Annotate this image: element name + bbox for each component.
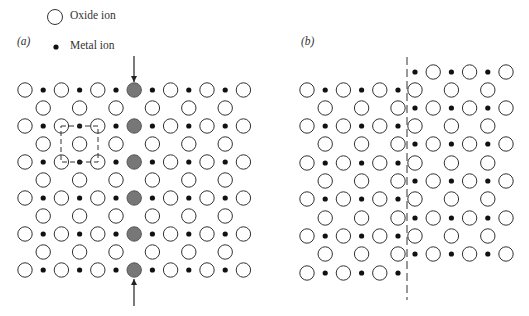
panel-b-label: (b) bbox=[301, 35, 314, 47]
oxide-ion bbox=[300, 156, 314, 170]
oxide-ion bbox=[391, 247, 405, 261]
oxide-ion bbox=[54, 191, 68, 205]
legend bbox=[48, 10, 63, 50]
oxide-ion bbox=[91, 263, 105, 277]
metal-ion bbox=[323, 123, 328, 128]
metal-ion bbox=[150, 87, 155, 92]
oxide-ion bbox=[481, 192, 495, 206]
oxide-ion bbox=[36, 101, 50, 115]
metal-ion bbox=[77, 267, 82, 272]
metal-ion bbox=[323, 233, 328, 238]
oxide-ion bbox=[373, 119, 387, 133]
metal-ion bbox=[77, 231, 82, 236]
metal-ion bbox=[41, 159, 46, 164]
oxide-ion bbox=[391, 101, 405, 115]
metal-ion bbox=[113, 87, 118, 92]
metal-ion bbox=[412, 141, 417, 146]
oxide-ion bbox=[91, 83, 105, 97]
oxide-ion bbox=[18, 83, 32, 97]
oxide-ion bbox=[426, 101, 440, 115]
arrow-up-icon bbox=[131, 279, 137, 306]
metal-ion bbox=[395, 87, 400, 92]
oxide-ion bbox=[444, 156, 458, 170]
oxide-ion bbox=[163, 263, 177, 277]
oxide-ion bbox=[109, 173, 123, 187]
oxide-ion bbox=[499, 247, 513, 261]
oxide-ion bbox=[145, 245, 159, 259]
oxide-ion bbox=[218, 101, 232, 115]
oxide-ion bbox=[18, 191, 32, 205]
oxide-ion bbox=[36, 245, 50, 259]
metal-ion bbox=[412, 215, 417, 220]
metal-ion bbox=[223, 159, 228, 164]
oxide-ion bbox=[182, 137, 196, 151]
oxide-ion bbox=[218, 209, 232, 223]
oxide-ion bbox=[91, 227, 105, 241]
oxide-ion bbox=[300, 83, 314, 97]
oxide-ion bbox=[354, 247, 368, 261]
oxide-ion bbox=[182, 209, 196, 223]
oxide-ion bbox=[354, 137, 368, 151]
oxide-ion bbox=[462, 247, 476, 261]
shaded-oxide-ion bbox=[127, 83, 141, 97]
metal-ion bbox=[186, 87, 191, 92]
metal-ion bbox=[359, 160, 364, 165]
metal-ion bbox=[77, 195, 82, 200]
shaded-oxide-ion bbox=[127, 155, 141, 169]
metal-ion bbox=[223, 267, 228, 272]
oxide-ion bbox=[462, 174, 476, 188]
oxide-ion bbox=[145, 209, 159, 223]
oxide-ion bbox=[462, 137, 476, 151]
oxide-ion bbox=[408, 119, 422, 133]
metal-ion bbox=[223, 123, 228, 128]
oxide-ion bbox=[218, 173, 232, 187]
oxide-ion bbox=[54, 227, 68, 241]
metal-ion bbox=[186, 195, 191, 200]
oxide-ion bbox=[109, 137, 123, 151]
oxide-ion-label: Oxide ion bbox=[70, 9, 116, 21]
metal-ion bbox=[150, 159, 155, 164]
oxide-ion bbox=[200, 227, 214, 241]
oxide-ion bbox=[391, 211, 405, 225]
oxide-ion bbox=[373, 83, 387, 97]
oxide-ion bbox=[236, 227, 250, 241]
metal-ion bbox=[186, 231, 191, 236]
metal-ion bbox=[223, 195, 228, 200]
oxide-ion bbox=[318, 247, 332, 261]
oxide-ion bbox=[18, 155, 32, 169]
oxide-ion bbox=[336, 266, 350, 280]
oxide-ion bbox=[481, 229, 495, 243]
oxide-ion bbox=[462, 211, 476, 225]
oxide-ion bbox=[391, 137, 405, 151]
oxide-ion bbox=[300, 229, 314, 243]
metal-ion bbox=[150, 267, 155, 272]
oxide-ion bbox=[145, 173, 159, 187]
metal-ion bbox=[449, 105, 454, 110]
oxide-ion bbox=[354, 101, 368, 115]
metal-ion bbox=[186, 159, 191, 164]
panel-a-label: (a) bbox=[17, 35, 30, 47]
oxide-ion bbox=[236, 263, 250, 277]
oxide-ion bbox=[318, 211, 332, 225]
oxide-ion bbox=[200, 155, 214, 169]
oxide-ion bbox=[218, 245, 232, 259]
metal-ion bbox=[150, 195, 155, 200]
oxide-ion bbox=[499, 174, 513, 188]
oxide-ion bbox=[236, 119, 250, 133]
shaded-oxide-ion bbox=[127, 119, 141, 133]
oxide-ion bbox=[54, 263, 68, 277]
metal-ion-legend-icon bbox=[53, 44, 58, 49]
oxide-ion bbox=[91, 191, 105, 205]
oxide-ion bbox=[200, 119, 214, 133]
oxide-ion bbox=[72, 137, 86, 151]
oxide-ion bbox=[182, 173, 196, 187]
metal-ion bbox=[41, 267, 46, 272]
oxide-ion bbox=[373, 266, 387, 280]
oxide-ion bbox=[373, 156, 387, 170]
oxide-ion bbox=[163, 227, 177, 241]
metal-ion bbox=[150, 231, 155, 236]
oxide-ion bbox=[236, 191, 250, 205]
metal-ion bbox=[323, 196, 328, 201]
metal-ion bbox=[485, 69, 490, 74]
oxide-ion bbox=[444, 83, 458, 97]
